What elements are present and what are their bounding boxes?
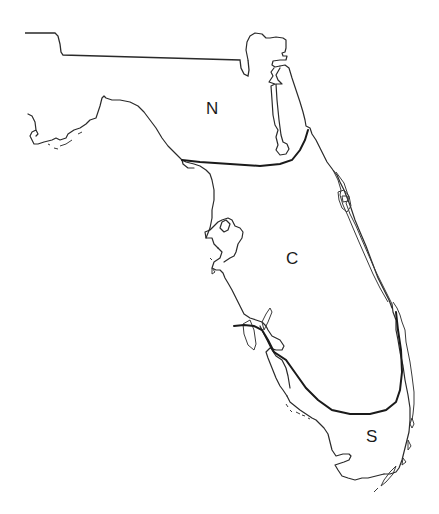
- key-southeast-1: [408, 440, 411, 450]
- region-label-north: N: [206, 100, 218, 117]
- boundary-central-south: [234, 312, 402, 414]
- coastline-east: [280, 65, 392, 308]
- panhandle-barrier-islands: [48, 132, 82, 149]
- coastline-panhandle: [28, 96, 182, 160]
- state-border-north: [25, 33, 249, 76]
- cape-canaveral-lagoon: [342, 196, 348, 202]
- coastline-southwest: [212, 248, 287, 396]
- st-johns-river: [269, 68, 289, 155]
- tampa-island-2: [210, 258, 212, 260]
- region-label-central: C: [286, 250, 298, 267]
- key-lower: [374, 488, 378, 492]
- coastline-northeast: [246, 33, 287, 67]
- ten-thousand-islands: [286, 404, 310, 419]
- region-label-south: S: [366, 428, 377, 445]
- key-southeast-2: [402, 458, 406, 465]
- florida-region-map: N C S: [0, 0, 439, 514]
- coastline-west-central: [182, 160, 214, 238]
- tampa-bay-inner: [220, 220, 230, 232]
- key-largo: [381, 466, 396, 486]
